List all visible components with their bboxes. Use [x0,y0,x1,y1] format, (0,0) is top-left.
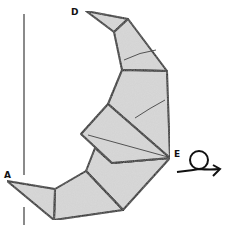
point-a-label: A [4,170,11,180]
point-d-label: D [71,7,78,17]
point-a-flap [7,181,55,220]
upper-body-panel [114,19,167,71]
turn-over-icon [177,151,220,176]
origami-model [7,11,170,220]
point-e-label: E [174,149,180,159]
origami-diagram: D A E [0,0,227,225]
